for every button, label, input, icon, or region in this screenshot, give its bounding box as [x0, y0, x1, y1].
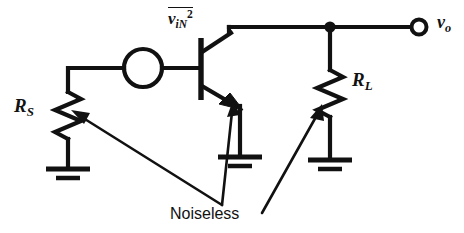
- load-resistor: [317, 27, 343, 158]
- source-resistor-label-subscript: S: [27, 104, 34, 119]
- noise-source-label-superscript: 2: [187, 8, 193, 21]
- ground-emitter: [218, 157, 262, 166]
- noise-source-label-overbar: viN2: [168, 7, 193, 30]
- noise-source-label-subscript: iN: [176, 18, 188, 31]
- circuit-diagram: viN2 RS RL vo Noiseless: [0, 0, 464, 233]
- noiseless-annotation-label: Noiseless: [170, 206, 239, 222]
- output-terminal-circle: [412, 20, 427, 35]
- schematic-svg: [0, 0, 464, 233]
- noise-source-circle: [124, 49, 162, 87]
- source-resistor: [55, 68, 124, 168]
- output-terminal: [412, 20, 427, 35]
- arrow-to-load-resistor-head: [310, 104, 324, 121]
- arrow-to-load-resistor-shaft: [262, 115, 317, 213]
- source-resistor-label: RS: [14, 96, 34, 119]
- load-resistor-label-subscript: L: [365, 78, 373, 93]
- load-resistor-label-symbol: R: [352, 69, 365, 90]
- source-resistor-label-symbol: R: [14, 95, 27, 116]
- load-resistor-label: RL: [352, 70, 373, 93]
- output-node-label-symbol: v: [437, 12, 445, 32]
- arrow-to-source-resistor-shaft: [80, 116, 222, 205]
- output-node-label-subscript: o: [445, 21, 451, 35]
- output-node-label: vo: [437, 13, 451, 34]
- source-resistor-top-lead: [68, 68, 124, 92]
- ground-source: [46, 169, 90, 178]
- transistor-collector-lead: [202, 33, 231, 52]
- annotation-arrows: [71, 100, 324, 213]
- ground-load: [308, 160, 352, 169]
- noise-source-label: viN2: [168, 7, 193, 30]
- noise-voltage-source: [124, 49, 200, 87]
